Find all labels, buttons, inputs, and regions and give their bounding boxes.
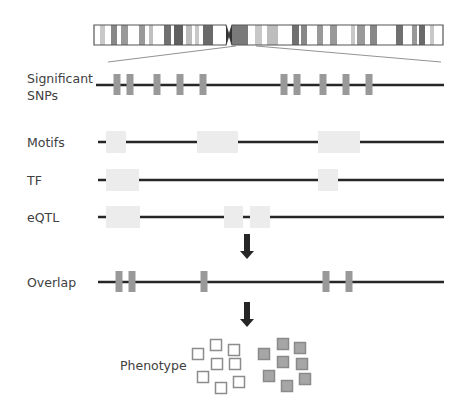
region-box [106, 169, 139, 191]
arrow-shaft [244, 234, 250, 251]
chromosome-band [232, 25, 248, 45]
chromosome-band [301, 25, 307, 45]
chromosome-band [203, 25, 213, 45]
significant-snps-label: Significant SNPs [27, 70, 93, 104]
chromosome-band [330, 25, 337, 45]
tf-label: TF [27, 172, 42, 189]
arrow-down-icon [240, 319, 254, 327]
open-square [234, 377, 245, 388]
filled-square [278, 357, 289, 368]
snp-marker [154, 74, 161, 95]
chromosome-band [396, 25, 403, 45]
chromosome-ideogram [94, 25, 443, 45]
snp-marker [320, 74, 327, 95]
label-line-2: SNPs [27, 87, 93, 104]
chromosome-band [255, 25, 262, 45]
arrow-shaft [244, 302, 250, 319]
snp-marker [200, 74, 207, 95]
snp-marker [116, 271, 123, 292]
snp-marker [323, 271, 330, 292]
snp-marker [201, 271, 208, 292]
chromosome-band [174, 25, 183, 45]
overlap-label: Overlap [27, 274, 76, 291]
open-square [212, 359, 223, 370]
zoom-line [256, 46, 441, 62]
chromosome-band [195, 25, 199, 45]
open-square [198, 372, 209, 383]
motifs-label: Motifs [27, 134, 65, 151]
filled-square [300, 374, 311, 385]
chromosome-band [370, 25, 377, 45]
eqtl-track [98, 206, 444, 228]
filled-square [297, 359, 308, 370]
zoom-lines [108, 46, 441, 62]
filled-square [264, 371, 275, 382]
region-box [318, 131, 360, 153]
open-square [211, 340, 222, 351]
open-square [216, 383, 227, 394]
snp-marker [114, 74, 121, 95]
chromosome-band [292, 25, 299, 45]
open-square [193, 349, 204, 360]
significant-snps-track [96, 74, 444, 95]
chromosome-band [419, 25, 425, 45]
chromosome-band [164, 25, 171, 45]
label-line-1: Significant [27, 70, 93, 87]
region-box [318, 169, 338, 191]
filled-square [282, 381, 293, 392]
region-box [224, 206, 243, 228]
arrow-down-icon [240, 251, 254, 259]
snp-marker [366, 74, 373, 95]
snp-marker [281, 74, 288, 95]
overlap-track [98, 271, 444, 292]
filled-square [259, 349, 270, 360]
open-square [229, 345, 240, 356]
snp-marker [343, 74, 350, 95]
chromosome-band [317, 25, 323, 45]
phenotype-label: Phenotype [120, 357, 187, 374]
snp-marker [294, 74, 301, 95]
chromosome-band [351, 25, 355, 45]
region-box [197, 131, 238, 153]
snp-marker [127, 74, 134, 95]
chromosome-band [412, 25, 417, 45]
chromosome-band [267, 25, 278, 45]
chromosome-band [149, 25, 153, 45]
chromosome-band [100, 25, 105, 45]
chromosome-band [121, 25, 128, 45]
chromosome-band [111, 25, 117, 45]
snp-marker [346, 271, 353, 292]
phenotype-squares [193, 339, 311, 394]
centromere [226, 25, 232, 45]
motifs-track [98, 131, 444, 153]
open-square [230, 359, 241, 370]
chromosome-band [186, 25, 192, 45]
tf-track [98, 169, 444, 191]
chromosome-band [357, 25, 365, 45]
snp-marker [177, 74, 184, 95]
filled-square [278, 339, 289, 350]
chromosome-band [430, 25, 434, 45]
snp-marker [129, 271, 136, 292]
region-box [106, 206, 140, 228]
eqtl-label: eQTL [27, 209, 59, 226]
filled-square [295, 343, 306, 354]
zoom-line [108, 46, 236, 62]
chromosome-band [139, 25, 145, 45]
region-box [250, 206, 270, 228]
snp-annotation-diagram [0, 0, 469, 411]
down-arrows [240, 234, 254, 327]
region-box [106, 131, 126, 153]
